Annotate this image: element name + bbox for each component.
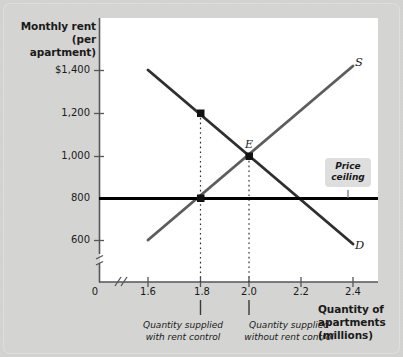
marker-demand-at-1-8	[197, 110, 205, 118]
chart-svg	[0, 0, 403, 357]
marker-equilibrium	[246, 153, 254, 161]
marker-supply-at-ceiling	[197, 195, 205, 203]
figure-container: Monthly rent (per apartment) Quantity of…	[0, 0, 403, 357]
y-axis-break-icon	[96, 256, 103, 266]
